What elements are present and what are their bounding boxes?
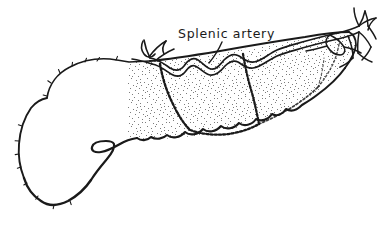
splenic-artery-label: Splenic artery: [178, 26, 275, 41]
pancreas-figure: Splenic artery: [0, 0, 391, 230]
contour-ticks: [15, 56, 117, 208]
pancreas-illustration: Splenic artery: [0, 0, 391, 230]
